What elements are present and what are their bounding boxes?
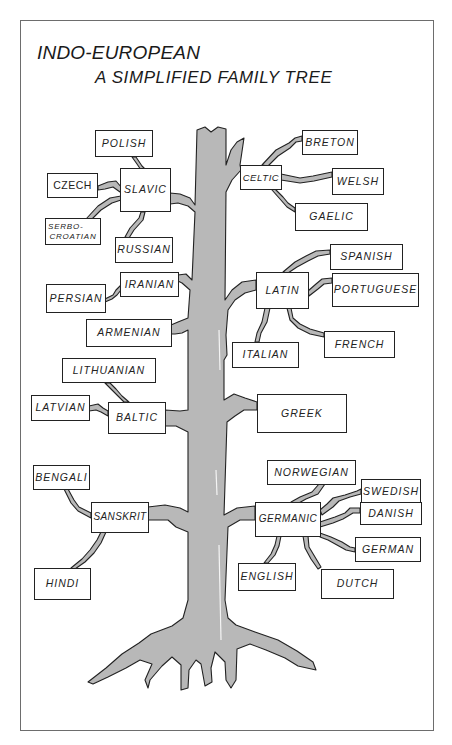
node-polish: POLISH [95,130,153,157]
serbo-line2: CROATIAN [49,232,96,242]
node-lithuanian: LITHUANIAN [62,358,156,383]
branch-persian [105,285,121,302]
node-armenian: ARMENIAN [86,319,172,347]
branch-breton [262,136,302,166]
node-germanic: GERMANIC [255,502,321,537]
branch-german [320,533,355,552]
node-gaelic: GAELIC [295,203,368,231]
node-greek: GREEK [257,394,347,433]
node-baltic: BALTIC [108,402,166,434]
serbo-line1: SERBO- [46,222,83,232]
node-persian: PERSIAN [46,284,106,313]
node-russian: RUSSIAN [115,237,173,263]
node-italian: ITALIAN [232,342,299,368]
node-serbo-croatian: SERBO- CROATIAN [45,218,101,245]
node-latvian: LATVIAN [31,395,90,421]
branch-portuguese [308,278,332,296]
node-english: ENGLISH [238,563,296,591]
node-spanish: SPANISH [330,244,403,270]
node-iranian: IRANIAN [120,272,179,297]
node-latin: LATIN [256,272,309,309]
branch-hindi [71,532,106,569]
node-french: FRENCH [324,331,395,358]
branch-czech [98,181,122,192]
node-celtic: CELTIC [240,165,282,190]
node-swedish: SWEDISH [361,479,421,504]
branch-lithuanian [105,383,129,402]
node-danish: DANISH [360,502,422,525]
node-dutch: DUTCH [321,569,394,599]
branch-russian [125,212,145,238]
branch-dutch [303,536,321,569]
node-german: GERMAN [355,537,421,562]
branch-welsh [281,172,332,183]
node-norwegian: NORWEGIAN [267,460,356,485]
node-hindi: HINDI [34,568,91,600]
node-breton: BRETON [302,130,358,155]
branch-italian [255,308,270,342]
branch-latvian [89,404,108,416]
node-bengali: BENGALI [33,465,90,490]
branch-gaelic [272,189,295,212]
branch-bengali [64,489,91,518]
branch-norwegian [291,484,325,504]
branch-english [264,536,281,563]
branch-french [287,308,324,337]
branch-spanish [283,250,330,273]
node-portuguese: PORTUGUESE [332,273,419,307]
node-czech: CZECH [47,173,98,198]
node-sanskrit: SANSKRIT [91,502,149,533]
node-welsh: WELSH [332,168,384,195]
node-slavic: SLAVIC [120,168,171,212]
branch-serbo [86,196,121,220]
